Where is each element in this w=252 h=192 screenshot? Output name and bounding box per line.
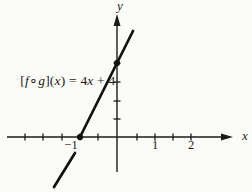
y-axis-label: y [117,0,123,14]
function-line-lower-segment [54,153,75,187]
equation-label: [f∘g](x) = 4x + 4 [6,56,115,105]
y-axis-arrowhead-icon [114,14,121,26]
function-line [54,31,133,187]
equation-plus-4: + 4 [94,73,116,88]
x-tick-label-neg1: −1 [64,138,77,153]
x-tick-label-2: 2 [188,138,194,153]
x-axis-label: x [242,128,248,144]
x-intercept-point [77,134,83,140]
equation-bracket-close: ]( [45,73,54,88]
x-axis-arrowhead-icon [221,134,233,141]
composition-operator-icon: ∘ [29,73,38,88]
x-tick-label-1: 1 [152,138,158,153]
figure-composition-graph: [f∘g](x) = 4x + 4 y x −1 1 2 [0,0,252,192]
equation-equals-4: ) = 4 [61,73,88,88]
